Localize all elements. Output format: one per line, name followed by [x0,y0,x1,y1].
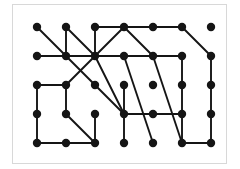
graph-node [62,52,70,60]
graph-edge [124,27,153,56]
graph-node [120,81,128,89]
graph-edge [124,56,153,143]
graph-node [33,139,41,147]
graph-node [91,81,99,89]
graph-node [33,110,41,118]
graph-edge [95,85,124,114]
graph-node [178,52,186,60]
graph-node [91,52,99,60]
graph-node [207,139,215,147]
graph-node [149,81,157,89]
graph-node [120,110,128,118]
graph-node [178,23,186,31]
graph-node [91,110,99,118]
diagram-canvas [0,0,240,169]
graph-edge [182,27,211,56]
graph-node [178,81,186,89]
graph-node [33,23,41,31]
graph-node [149,52,157,60]
graph-node [120,139,128,147]
graph-node [120,52,128,60]
graph-node [62,110,70,118]
graph-node [62,23,70,31]
grid-graph [0,0,240,169]
graph-node [149,110,157,118]
graph-node [207,110,215,118]
graph-edge [95,27,124,56]
graph-node [207,81,215,89]
graph-node [178,110,186,118]
graph-edge [37,27,66,56]
graph-node [207,23,215,31]
graph-node [62,139,70,147]
graph-edge [66,114,95,143]
graph-edge [153,56,182,143]
graph-node [149,139,157,147]
graph-node [149,23,157,31]
graph-node [33,52,41,60]
graph-node [178,139,186,147]
graph-edge [66,27,95,56]
graph-node [120,23,128,31]
graph-edge [95,56,124,114]
graph-node [91,139,99,147]
graph-node [33,81,41,89]
graph-node [91,23,99,31]
graph-node [207,52,215,60]
graph-node [62,81,70,89]
